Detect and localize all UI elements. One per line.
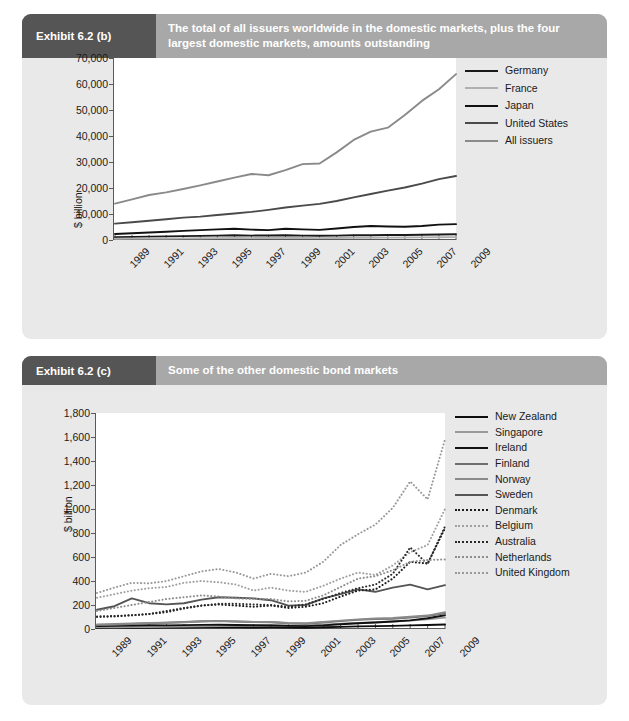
legend-item: Belgium <box>455 518 570 534</box>
exhibit-c-tag: Exhibit 6.2 (c) <box>22 356 156 385</box>
legend-label: United States <box>505 118 568 129</box>
y-tick-label: 1,000 <box>49 503 90 515</box>
x-tick-label: 1993 <box>178 634 203 659</box>
legend-swatch-dotted-line-icon <box>455 509 488 511</box>
legend-swatch-solid-line-icon <box>465 140 498 142</box>
legend-swatch-solid-line-icon <box>455 494 488 496</box>
x-tick-label: 1989 <box>127 245 152 270</box>
series-line <box>97 439 445 593</box>
legend-swatch-solid-line-icon <box>465 70 498 72</box>
y-tick-label: 800 <box>49 527 90 539</box>
legend-label: Sweden <box>495 489 533 500</box>
x-tick-label: 2009 <box>457 634 482 659</box>
y-tick-label: 1,200 <box>49 479 90 491</box>
legend-item: Denmark <box>455 503 570 519</box>
legend-label: Ireland <box>495 442 527 453</box>
y-tick-label: 30,000 <box>67 156 108 168</box>
legend-label: All issuers <box>505 135 553 146</box>
y-tick-label: 1,600 <box>49 431 90 443</box>
legend-item: All issuers <box>465 132 568 150</box>
series-line <box>115 224 456 234</box>
legend-swatch-solid-line-icon <box>455 416 488 418</box>
y-tick-label: 0 <box>67 234 108 246</box>
y-tick-mark <box>91 629 95 630</box>
x-tick-label: 2003 <box>352 634 377 659</box>
legend-item: New Zealand <box>455 409 570 425</box>
chart-c: $ billion 02004006008001,0001,2001,4001,… <box>22 387 607 705</box>
x-tick-label: 2001 <box>331 245 356 270</box>
x-tick-label: 1997 <box>263 245 288 270</box>
chart-b-legend: GermanyFranceJapanUnited StatesAll issue… <box>465 62 568 150</box>
y-tick-label: 10,000 <box>67 208 108 220</box>
legend-item: Netherlands <box>455 549 570 565</box>
legend-item: Finland <box>455 456 570 472</box>
legend-swatch-dotted-line-icon <box>455 572 488 574</box>
chart-c-plot-area <box>95 413 445 629</box>
y-tick-label: 60,000 <box>67 78 108 90</box>
y-tick-label: 1,800 <box>49 407 90 419</box>
legend-swatch-solid-line-icon <box>465 87 498 89</box>
legend-item: France <box>465 80 568 98</box>
x-tick-label: 2009 <box>468 245 493 270</box>
exhibit-b-title: The total of all issuers worldwide in th… <box>156 14 607 58</box>
x-tick-label: 1999 <box>297 245 322 270</box>
legend-swatch-dotted-line-icon <box>455 541 488 543</box>
exhibit-c-title: Some of the other domestic bond markets <box>156 356 607 385</box>
x-tick-label: 1997 <box>248 634 273 659</box>
exhibit-panel-c: Exhibit 6.2 (c) Some of the other domest… <box>22 356 607 705</box>
y-tick-label: 50,000 <box>67 104 108 116</box>
legend-label: Finland <box>495 458 529 469</box>
textbook-page: Exhibit 6.2 (b) The total of all issuers… <box>0 0 629 721</box>
x-tick-label: 1999 <box>283 634 308 659</box>
legend-label: Australia <box>495 536 536 547</box>
x-tick-label: 1993 <box>195 245 220 270</box>
x-tick-label: 2005 <box>400 245 425 270</box>
legend-swatch-solid-line-icon <box>455 478 488 480</box>
x-tick-label: 2003 <box>366 245 391 270</box>
x-tick-label: 1991 <box>144 634 169 659</box>
exhibit-panel-b: Exhibit 6.2 (b) The total of all issuers… <box>22 14 607 339</box>
x-tick-label: 2007 <box>434 245 459 270</box>
legend-label: New Zealand <box>495 411 557 422</box>
legend-item: Ireland <box>455 440 570 456</box>
series-line <box>115 74 456 203</box>
y-tick-label: 1,400 <box>49 455 90 467</box>
x-tick-label: 1989 <box>109 634 134 659</box>
y-tick-mark <box>109 240 113 241</box>
legend-item: Australia <box>455 534 570 550</box>
legend-swatch-solid-line-icon <box>455 431 488 433</box>
legend-item: United Kingdom <box>455 565 570 581</box>
series-line <box>97 509 445 598</box>
x-tick-label: 2001 <box>318 634 343 659</box>
legend-item: United States <box>465 115 568 133</box>
y-tick-label: 40,000 <box>67 130 108 142</box>
legend-swatch-solid-line-icon <box>455 447 488 449</box>
legend-item: Sweden <box>455 487 570 503</box>
series-line <box>115 176 456 224</box>
legend-swatch-solid-line-icon <box>465 105 498 107</box>
legend-swatch-solid-line-icon <box>465 122 498 124</box>
chart-c-legend: New ZealandSingaporeIrelandFinlandNorway… <box>455 409 570 581</box>
y-tick-label: 0 <box>49 623 90 635</box>
legend-label: France <box>505 83 538 94</box>
x-tick-label: 2005 <box>387 634 412 659</box>
x-tick-label: 2007 <box>422 634 447 659</box>
x-tick-label: 1995 <box>229 245 254 270</box>
legend-swatch-solid-line-icon <box>455 463 488 465</box>
exhibit-b-header: Exhibit 6.2 (b) The total of all issuers… <box>22 14 607 58</box>
y-tick-label: 200 <box>49 599 90 611</box>
legend-swatch-dotted-line-icon <box>455 556 488 558</box>
legend-item: Singapore <box>455 425 570 441</box>
x-tick-label: 1995 <box>213 634 238 659</box>
legend-swatch-dotted-line-icon <box>455 525 488 527</box>
legend-label: Belgium <box>495 520 533 531</box>
legend-label: Germany <box>505 65 548 76</box>
y-tick-label: 600 <box>49 551 90 563</box>
legend-item: Germany <box>465 62 568 80</box>
legend-label: Denmark <box>495 505 538 516</box>
chart-b: $ billion 010,00020,00030,00040,00050,00… <box>22 58 607 339</box>
legend-label: Japan <box>505 100 534 111</box>
legend-item: Norway <box>455 471 570 487</box>
y-tick-label: 400 <box>49 575 90 587</box>
y-tick-label: 20,000 <box>67 182 108 194</box>
